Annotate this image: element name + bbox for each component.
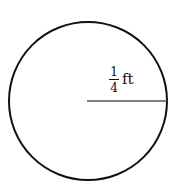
fraction-denominator: 4 — [110, 81, 118, 95]
radius-label: 1 4 ft — [109, 65, 134, 95]
circle-diagram: 1 4 ft — [0, 0, 180, 184]
unit-label: ft — [122, 70, 134, 88]
fraction-numerator: 1 — [110, 65, 118, 79]
